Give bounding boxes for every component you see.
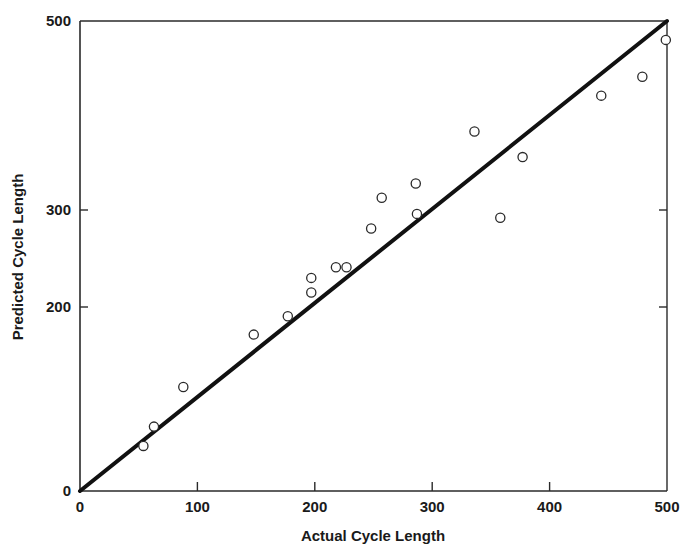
x-tick-label: 0 [76,498,84,515]
data-point-marker [496,213,505,222]
reference-line [80,21,667,491]
y-tick-label: 300 [46,201,71,218]
y-tick-label: 0 [63,482,71,499]
y-axis-title: Predicted Cycle Length [9,174,26,341]
x-tick-label: 300 [420,498,445,515]
data-point-marker [367,224,376,233]
data-point-marker [638,72,647,81]
data-point-marker [179,382,188,391]
data-point-marker [342,263,351,272]
y-tick-label: 500 [46,12,71,29]
data-point-marker [597,91,606,100]
x-tick-label: 500 [654,498,679,515]
data-points [139,35,671,450]
x-axis-title: Actual Cycle Length [301,527,445,544]
data-point-marker [249,330,258,339]
data-point-marker [377,193,386,202]
data-point-marker [661,35,670,44]
data-point-marker [518,152,527,161]
x-tick-label: 200 [302,498,327,515]
x-tick-label: 100 [185,498,210,515]
data-point-marker [307,288,316,297]
scatter-chart: 0100200300400500 0200300500 Actual Cycle… [0,0,693,556]
data-point-marker [149,422,158,431]
data-point-marker [283,312,292,321]
y-tick-label: 200 [46,298,71,315]
data-point-marker [470,127,479,136]
data-point-marker [412,209,421,218]
x-tick-label: 400 [537,498,562,515]
data-point-marker [139,441,148,450]
data-point-marker [307,273,316,282]
y-axis-ticks: 0200300500 [46,12,667,499]
x-axis-ticks: 0100200300400500 [76,482,680,515]
data-point-marker [331,263,340,272]
data-point-marker [411,179,420,188]
